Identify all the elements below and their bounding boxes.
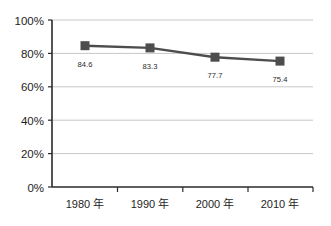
y-axis-label-80: 80% bbox=[21, 48, 44, 60]
x-axis-label-1980: 1980 年 bbox=[66, 197, 105, 210]
y-axis-label-100: 100% bbox=[15, 15, 44, 27]
chart-background bbox=[0, 0, 331, 226]
x-axis-label-2000: 2000 年 bbox=[196, 197, 235, 210]
line-chart: 100% 80% 60% 40% 20% 0% 1980 年 1990 年 20… bbox=[0, 0, 331, 226]
x-axis-label-2010: 2010 年 bbox=[261, 197, 300, 210]
x-axis-label-1990: 1990 年 bbox=[131, 197, 170, 210]
y-axis-label-0: 0% bbox=[27, 182, 44, 194]
data-point-label: 83.3 bbox=[143, 62, 158, 71]
data-point-marker[interactable] bbox=[211, 53, 220, 62]
chart-canvas: 100% 80% 60% 40% 20% 0% 1980 年 1990 年 20… bbox=[0, 0, 331, 226]
y-axis-label-40: 40% bbox=[21, 115, 44, 127]
y-axis-label-60: 60% bbox=[21, 81, 44, 93]
data-point-marker[interactable] bbox=[146, 43, 155, 52]
data-point-marker[interactable] bbox=[81, 41, 90, 50]
data-point-label: 75.4 bbox=[273, 75, 288, 84]
y-axis-label-20: 20% bbox=[21, 148, 44, 160]
data-point-label: 77.7 bbox=[208, 71, 223, 80]
data-point-marker[interactable] bbox=[276, 57, 285, 66]
data-point-label: 84.6 bbox=[78, 60, 93, 69]
